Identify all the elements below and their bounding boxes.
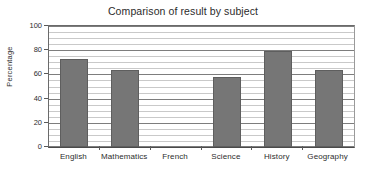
bar (213, 77, 241, 147)
gridline-major (49, 50, 354, 51)
gridline-minor (49, 117, 354, 118)
plot-area (48, 25, 355, 148)
x-axis-tick-label: Mathematics (101, 152, 147, 161)
gridline-minor (49, 62, 354, 63)
gridline-minor (49, 93, 354, 94)
x-axis-tick (201, 146, 202, 150)
y-axis-tick-label: 80 (12, 45, 42, 54)
gridline-minor (49, 80, 354, 81)
gridline-minor (49, 129, 354, 130)
x-axis-tick-label: French (162, 152, 188, 161)
gridline-minor (49, 111, 354, 112)
x-axis-tick (251, 146, 252, 150)
x-axis-tick-label: Geography (307, 152, 347, 161)
x-axis-tick (302, 146, 303, 150)
gridline-minor (49, 56, 354, 57)
y-axis-tick-label: 20 (12, 117, 42, 126)
bar (264, 51, 292, 147)
x-axis-tick (150, 146, 151, 150)
gridline-major (49, 99, 354, 100)
gridline-minor (49, 38, 354, 39)
gridline-major (49, 146, 354, 147)
gridline-minor (49, 68, 354, 69)
x-axis-tick-label: Science (211, 152, 240, 161)
gridline-minor (49, 135, 354, 136)
bar (60, 59, 88, 147)
y-axis-tick-label: 40 (12, 93, 42, 102)
gridline-minor (49, 44, 354, 45)
gridline-major (49, 74, 354, 75)
y-axis-tick-label: 0 (12, 142, 42, 151)
gridline-minor (49, 32, 354, 33)
x-axis-tick (99, 146, 100, 150)
bar (315, 70, 343, 147)
y-axis-tick-label: 60 (12, 69, 42, 78)
gridline-major (49, 26, 354, 27)
bar-chart-figure: Comparison of result by subject Percenta… (0, 0, 366, 176)
gridline-major (49, 123, 354, 124)
gridline-minor (49, 87, 354, 88)
bar (111, 70, 139, 147)
y-axis-tick-label: 100 (12, 21, 42, 30)
gridline-minor (49, 141, 354, 142)
gridline-minor (49, 105, 354, 106)
chart-title: Comparison of result by subject (0, 5, 366, 17)
x-axis-tick-label: History (264, 152, 290, 161)
x-axis-tick-label: English (60, 152, 87, 161)
